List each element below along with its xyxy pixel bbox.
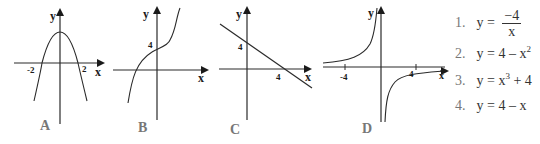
y-axis-label: y	[143, 7, 149, 21]
equation-1: 1. y = −4 x	[455, 8, 521, 39]
equation-2: 2. y = 4 – x2	[455, 44, 531, 62]
equation-text: y = 4 – x	[477, 98, 527, 113]
tick-label: 2	[82, 64, 87, 74]
tick-label: -4	[340, 72, 348, 82]
graph-label: A	[40, 118, 51, 133]
equation-suffix: + 4	[510, 73, 532, 88]
cubic-curve	[128, 8, 180, 103]
hyperbola-branch-right	[385, 71, 445, 122]
equation-number: 3.	[455, 73, 473, 89]
fraction: −4 x	[502, 8, 521, 39]
exponent: 2	[526, 44, 531, 54]
fraction-numerator: −4	[502, 8, 521, 24]
x-axis-label: x	[439, 70, 444, 81]
equation-prefix: y =	[477, 15, 495, 30]
tick-label: -2	[27, 65, 35, 75]
graph-label: C	[230, 122, 240, 137]
equation-text: y = x	[477, 73, 506, 88]
y-axis-label: y	[236, 7, 242, 21]
equation-3: 3. y = x3 + 4	[455, 71, 532, 89]
equation-number: 1.	[455, 15, 473, 31]
x-axis-label: x	[95, 65, 101, 79]
graph-a: y x -2 2 A	[14, 9, 103, 133]
equation-number: 4.	[455, 98, 473, 114]
equation-text: y = 4 – x	[477, 46, 527, 61]
graph-label: B	[138, 120, 147, 135]
function-graphs: y x -2 2 A y x 4 B y x 4 4 C y -4 4 D	[0, 0, 455, 144]
tick-label: 4	[238, 42, 243, 52]
graph-b: y x 4 B	[113, 7, 207, 135]
tick-label: 4	[276, 72, 281, 82]
y-axis-label: y	[368, 6, 374, 20]
x-axis-label: x	[305, 70, 311, 84]
x-axis-label: x	[198, 71, 204, 85]
equation-4: 4. y = 4 – x	[455, 98, 526, 114]
y-axis-label: y	[50, 9, 56, 23]
linear-curve	[220, 24, 312, 88]
tick-label: 4	[409, 69, 414, 79]
graph-d: y -4 4 D	[323, 6, 445, 136]
equation-number: 2.	[455, 46, 473, 62]
graph-label: D	[362, 121, 372, 136]
graph-c: y x 4 4 C	[219, 7, 312, 137]
tick-label: 4	[148, 40, 153, 50]
fraction-denominator: x	[502, 24, 521, 39]
